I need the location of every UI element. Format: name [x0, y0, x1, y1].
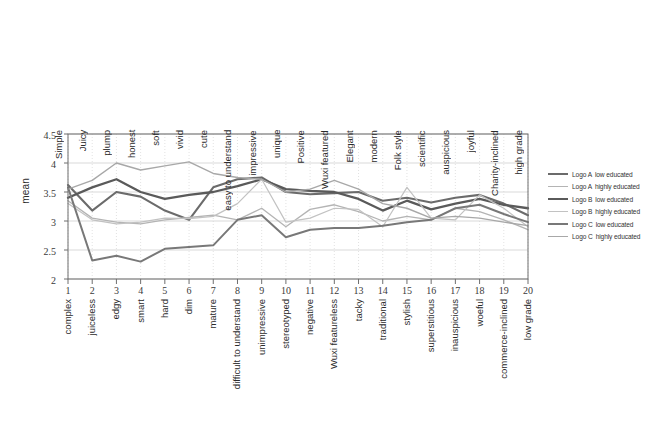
- x-tick-number: 20: [518, 286, 538, 296]
- top-axis-label: plump: [102, 130, 112, 156]
- x-tick-number: 19: [494, 286, 514, 296]
- top-axis-label: unique: [271, 130, 281, 159]
- bottom-axis-label: mature: [208, 299, 218, 329]
- x-tick-number: 1: [58, 286, 78, 296]
- top-axis-label: Elegant: [344, 130, 354, 162]
- legend-series-name: Logo C: [572, 221, 593, 228]
- legend-group-name: highly educated: [596, 233, 641, 240]
- x-tick-number: 7: [203, 286, 223, 296]
- x-tick-number: 15: [397, 286, 417, 296]
- legend-color-swatch: [548, 223, 568, 225]
- top-axis-label: impressive: [247, 130, 257, 175]
- bottom-axis-label: commerce-inclined: [499, 299, 509, 379]
- top-axis-label: easy to understand: [223, 130, 233, 211]
- bottom-axis-label: juiceless: [87, 299, 97, 335]
- legend-color-swatch: [548, 236, 568, 237]
- bottom-axis-label: superstitious: [426, 299, 436, 352]
- legend-series-name: Logo B: [572, 196, 592, 203]
- top-axis-label: Simple: [54, 130, 64, 159]
- bottom-axis-label: stylish: [402, 299, 412, 325]
- top-axis-label: cute: [199, 130, 209, 148]
- legend-group-name: low educated: [595, 196, 633, 203]
- bottom-axis-label: woeful: [475, 299, 485, 326]
- top-axis-label: honest: [126, 130, 136, 159]
- bottom-axis-label: negative: [305, 299, 315, 335]
- bottom-axis-label: stereotyped: [281, 299, 291, 349]
- x-tick-number: 16: [421, 286, 441, 296]
- top-axis-label: Folk style: [392, 130, 402, 170]
- legend-series-name: Logo B: [572, 208, 592, 215]
- x-tick-number: 6: [179, 286, 199, 296]
- bottom-axis-label: complex: [63, 299, 73, 334]
- legend-item[interactable]: Logo Chighly educated: [548, 231, 666, 243]
- chart-figure: mean 4.5 4 3.5 3 2.5 2 SimpleJuicyplumph…: [0, 0, 669, 437]
- bottom-axis-label: traditional: [378, 299, 388, 340]
- x-tick-number: 13: [349, 286, 369, 296]
- legend-color-swatch: [548, 186, 568, 187]
- top-axis-label: Charity-inclined: [489, 130, 499, 195]
- x-tick-number: 11: [300, 286, 320, 296]
- x-tick-number: 9: [252, 286, 272, 296]
- top-axis-label: scientific: [417, 130, 427, 166]
- top-axis-label: modern: [368, 130, 378, 162]
- top-axis-label: Positive: [296, 130, 306, 163]
- legend-item[interactable]: Logo Bhighly educated: [548, 206, 666, 218]
- bottom-axis-label: hard: [160, 299, 170, 318]
- legend-item[interactable]: Logo Clow educated: [548, 218, 666, 230]
- legend-label: Logo Clow educated: [572, 221, 633, 228]
- top-axis-label: soft: [150, 130, 160, 145]
- x-tick-number: 12: [324, 286, 344, 296]
- legend-color-swatch: [548, 198, 568, 200]
- legend-label: Logo Ahighly educated: [572, 183, 640, 190]
- legend-label: Logo Blow educated: [572, 196, 633, 203]
- top-axis-label: Wuxi featured: [320, 130, 330, 188]
- x-tick-number: 4: [131, 286, 151, 296]
- bottom-axis-label: smart: [136, 299, 146, 323]
- bottom-axis-label: difficult to understand: [232, 299, 242, 389]
- legend-series-name: Logo A: [572, 171, 592, 178]
- top-axis-label: high grade: [514, 130, 524, 175]
- x-tick-number: 17: [445, 286, 465, 296]
- legend-color-swatch: [548, 173, 568, 175]
- legend-series-name: Logo A: [572, 183, 592, 190]
- legend-series-name: Logo C: [572, 233, 593, 240]
- legend-item[interactable]: Logo Alow educated: [548, 168, 666, 180]
- bottom-axis-label: tacky: [354, 299, 364, 321]
- legend-group-name: highly educated: [595, 208, 640, 215]
- x-tick-number: 2: [82, 286, 102, 296]
- legend-label: Logo Alow educated: [572, 171, 633, 178]
- chart-legend: Logo Alow educatedLogo Ahighly educatedL…: [548, 168, 666, 243]
- legend-item[interactable]: Logo Blow educated: [548, 193, 666, 205]
- bottom-axis-label: Wuxi featureless: [329, 299, 339, 369]
- legend-group-name: low educated: [595, 171, 633, 178]
- legend-group-name: low educated: [596, 221, 634, 228]
- x-tick-number: 3: [106, 286, 126, 296]
- bottom-axis-label: edgy: [111, 299, 121, 320]
- top-axis-label: joyful: [465, 130, 475, 152]
- top-axis-label: auspicious: [441, 130, 451, 175]
- x-tick-number: 14: [373, 286, 393, 296]
- legend-group-name: highly educated: [595, 183, 640, 190]
- x-tick-number: 8: [227, 286, 247, 296]
- x-tick-number: 18: [470, 286, 490, 296]
- top-axis-label: Juicy: [78, 130, 88, 152]
- top-axis-label: vivid: [175, 130, 185, 149]
- legend-color-swatch: [548, 211, 568, 212]
- legend-item[interactable]: Logo Ahighly educated: [548, 181, 666, 193]
- bottom-axis-label: unimpressive: [257, 299, 267, 355]
- legend-label: Logo Chighly educated: [572, 233, 640, 240]
- bottom-axis-label: low grade: [523, 299, 533, 340]
- legend-label: Logo Bhighly educated: [572, 208, 640, 215]
- x-tick-number: 5: [155, 286, 175, 296]
- x-tick-number: 10: [276, 286, 296, 296]
- bottom-axis-label: dim: [184, 299, 194, 314]
- bottom-axis-label: inauspicious: [450, 299, 460, 351]
